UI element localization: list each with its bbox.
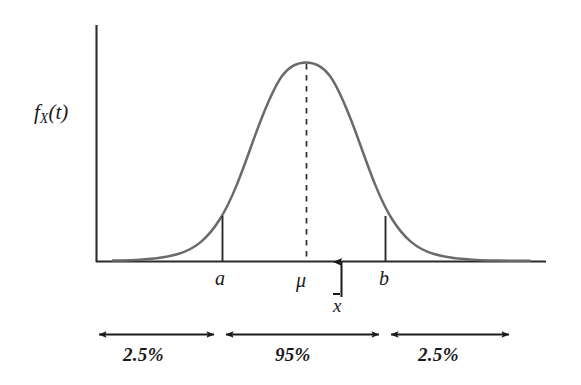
normal-distribution-figure: fX(t) a μ b x 2.5% 95% 2.5% — [0, 0, 581, 385]
interval-label-left-tail: 2.5% — [123, 345, 164, 364]
y-axis-label: fX(t) — [34, 102, 68, 126]
normal-curve — [113, 62, 530, 260]
interval-label-right-tail: 2.5% — [418, 345, 459, 364]
y-axis-label-arg: (t) — [48, 100, 68, 124]
label-b: b — [379, 268, 389, 288]
interval-label-confidence: 95% — [275, 345, 311, 364]
label-x-bar: x — [333, 296, 341, 315]
label-x-bar-symbol: x — [333, 295, 341, 316]
label-mu: μ — [296, 270, 306, 290]
label-a: a — [215, 268, 225, 288]
figure-canvas — [0, 0, 581, 385]
